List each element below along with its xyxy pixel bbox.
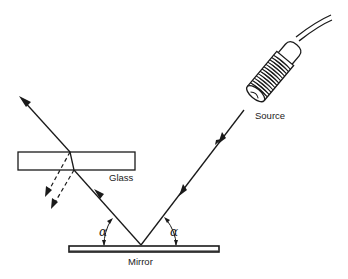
source-cable <box>296 15 332 41</box>
emergent-arrow-head <box>19 96 31 107</box>
source-device <box>244 38 305 105</box>
source-label: Source <box>255 110 285 121</box>
glass-plate <box>18 152 135 170</box>
incident-arrow-head-1 <box>218 132 226 144</box>
mirror-label: Mirror <box>128 256 153 267</box>
incident-ray <box>141 110 244 245</box>
angle-alpha-left: α <box>99 225 107 239</box>
angle-alpha-right: α <box>170 225 178 239</box>
emergent-ray <box>22 99 70 152</box>
glass-label: Glass <box>109 172 133 183</box>
